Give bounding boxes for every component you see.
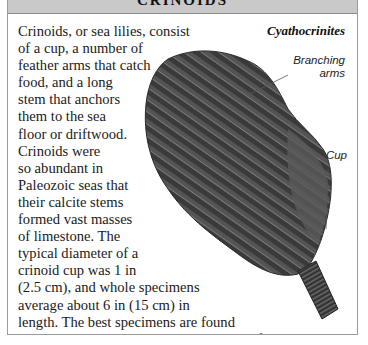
text-line: their calcite stems — [18, 194, 348, 211]
text-line: Paleozoic seas that — [18, 177, 348, 194]
text-line: of limestone. The — [18, 228, 348, 245]
body-paragraph: Crinoids, or sea lilies, consist of a cu… — [18, 23, 348, 335]
text-line: in limestone, such as the Silurian rocks… — [18, 331, 348, 335]
text-line: food, and a long — [18, 74, 348, 91]
text-line: stem that anchors — [18, 91, 348, 108]
text-line: (2.5 cm), and whole specimens — [18, 279, 348, 296]
text-line: them to the sea — [18, 108, 348, 125]
text-line: typical diameter of a — [18, 245, 348, 262]
text-line: so abundant in — [18, 160, 348, 177]
text-line: floor or driftwood. — [18, 126, 348, 143]
text-line: of a cup, a number of — [18, 40, 348, 57]
text-line: formed vast masses — [18, 211, 348, 228]
section-header: CRINOIDS — [8, 0, 357, 14]
text-line: length. The best specimens are found — [18, 314, 348, 331]
text-line: crinoid cup was 1 in — [18, 262, 348, 279]
text-line: Crinoids, or sea lilies, consist — [18, 23, 348, 40]
text-line: feather arms that catch — [18, 57, 348, 74]
info-box: CRINOIDS Cyathocrinites Branching arms C… — [7, 0, 358, 335]
text-line: average about 6 in (15 cm) in — [18, 297, 348, 314]
section-title: CRINOIDS — [137, 0, 228, 8]
text-line: Crinoids were — [18, 143, 348, 160]
